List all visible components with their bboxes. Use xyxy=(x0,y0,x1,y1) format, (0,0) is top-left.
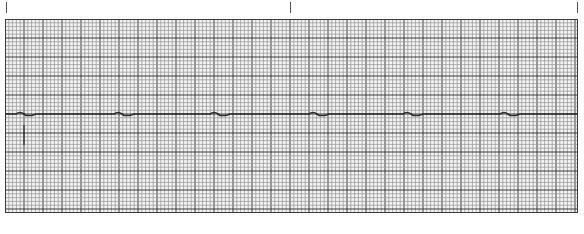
time-marker-left xyxy=(6,2,7,13)
time-marker-middle xyxy=(290,2,291,13)
time-marker-right xyxy=(577,2,578,13)
ecg-grid-and-trace xyxy=(5,19,578,213)
ecg-strip xyxy=(5,19,578,213)
